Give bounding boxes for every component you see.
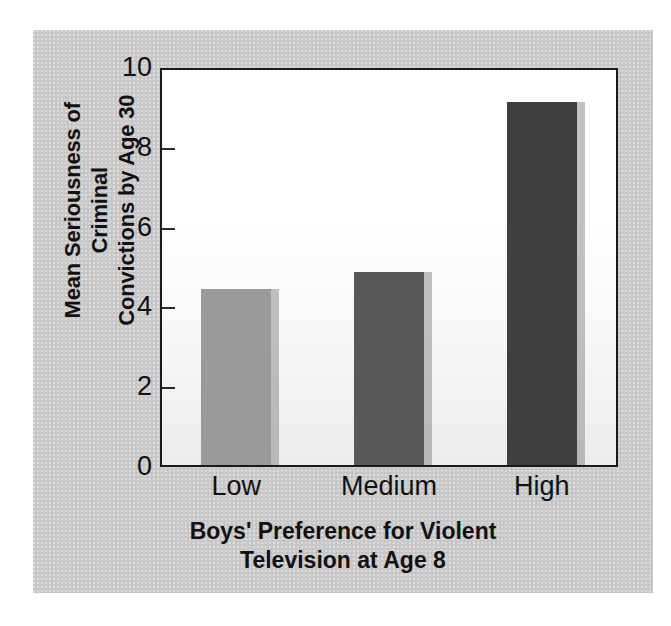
y-axis-tick-labels: 10 8 6 4 2 0 <box>108 68 152 467</box>
x-axis-tick-labels: Low Medium High <box>160 472 618 512</box>
y-tick-mark-2 <box>162 387 175 389</box>
x-tick-label-low: Low <box>160 472 313 512</box>
x-tick-label-high: High <box>465 472 618 512</box>
y-tick-mark-8 <box>162 148 175 150</box>
y-tick-label-8: 8 <box>112 134 152 161</box>
x-axis-title-line-2: Television at Age 8 <box>93 546 593 575</box>
y-tick-label-0: 0 <box>112 453 152 480</box>
bar-high[interactable] <box>507 102 577 465</box>
chart-panel: Mean Seriousness of Criminal Convictions… <box>33 30 653 593</box>
bar-medium[interactable] <box>354 272 424 466</box>
x-axis-title-line-1: Boys' Preference for Violent <box>93 517 593 546</box>
bar-low[interactable] <box>201 289 271 465</box>
y-tick-label-2: 2 <box>112 373 152 400</box>
plot-area <box>160 68 618 467</box>
y-tick-label-6: 6 <box>112 214 152 241</box>
y-tick-label-4: 4 <box>112 293 152 320</box>
y-tick-mark-4 <box>162 307 175 309</box>
y-axis-title-line-1: Mean Seriousness of Criminal <box>60 70 114 350</box>
figure-canvas: Mean Seriousness of Criminal Convictions… <box>0 0 671 626</box>
y-tick-label-10: 10 <box>112 54 152 81</box>
y-tick-mark-6 <box>162 228 175 230</box>
x-tick-label-medium: Medium <box>313 472 466 512</box>
x-axis-title: Boys' Preference for Violent Television … <box>93 517 593 575</box>
